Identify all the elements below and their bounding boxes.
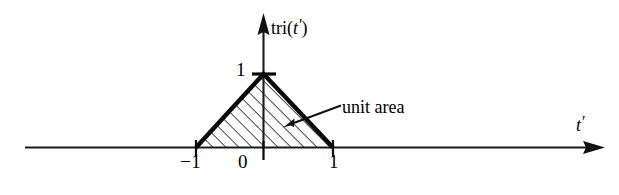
y-axis-label-prefix: tri( bbox=[271, 18, 293, 38]
y-tick-label-1: 1 bbox=[236, 60, 246, 79]
x-tick-label-1: 1 bbox=[329, 152, 339, 171]
y-axis-label-suffix: ) bbox=[302, 18, 308, 38]
x-axis-label: t′ bbox=[576, 114, 585, 134]
y-axis-label: tri(t′) bbox=[271, 17, 308, 37]
triangle-function-figure: tri(t′) t′ 1 −1 0 1 unit area bbox=[0, 0, 619, 195]
figure-canvas bbox=[0, 0, 619, 195]
x-tick-label-0: 0 bbox=[238, 152, 248, 171]
x-tick-label-minus-1: −1 bbox=[180, 152, 201, 171]
x-axis-label-prime: ′ bbox=[581, 113, 585, 130]
unit-area-annotation-label: unit area bbox=[342, 98, 404, 116]
